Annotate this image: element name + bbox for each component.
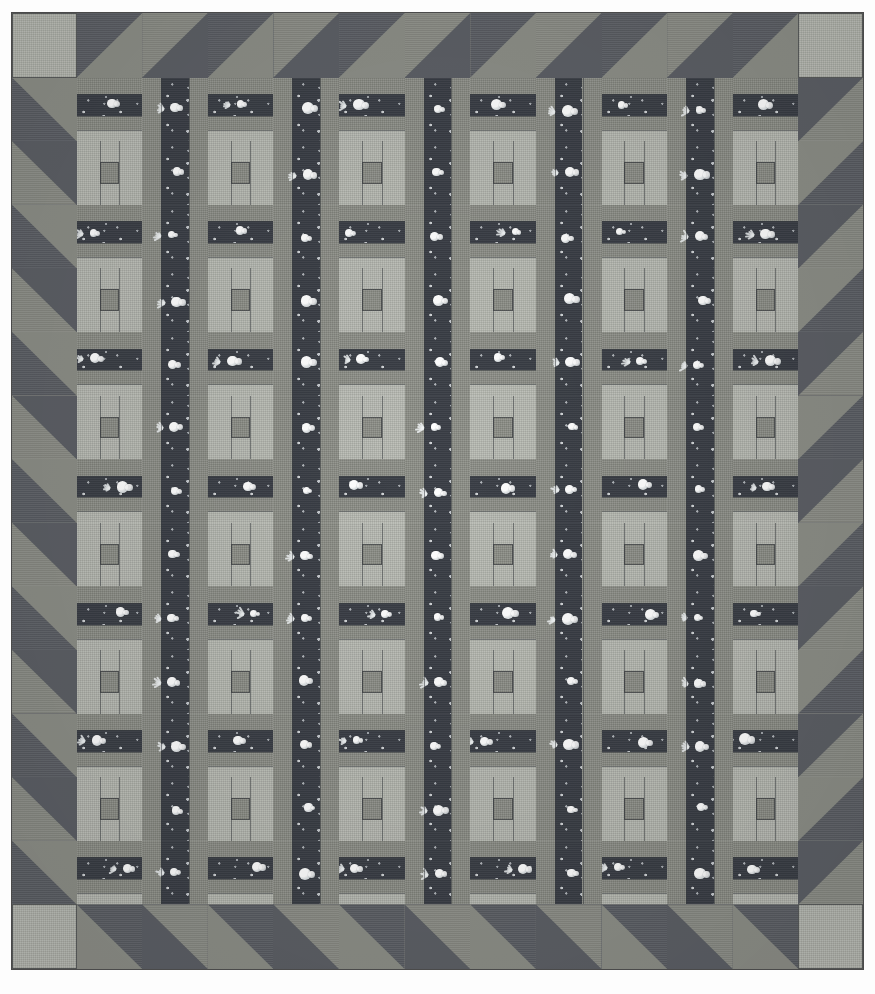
block-rail-fence: [602, 141, 668, 205]
block-coin-strip: [339, 714, 405, 778]
coin-band-light: [77, 384, 143, 395]
blossom-motif: [362, 102, 369, 109]
blossom-motif: [491, 99, 502, 110]
coin-band-medium: [470, 332, 536, 349]
sprig-motif: [83, 233, 84, 234]
coin-band-medium: [77, 586, 143, 603]
sprig-motif: [349, 359, 350, 360]
blossom-motif: [243, 482, 253, 492]
coin-band-light: [602, 639, 668, 650]
coin-band-print: [208, 94, 274, 116]
sprig-motif: [688, 237, 689, 238]
block-coin-strip: [339, 205, 405, 269]
block-coin-strip: [602, 459, 668, 523]
blossom-motif: [301, 614, 309, 622]
sprig-motif: [755, 487, 756, 488]
blossom-motif: [236, 226, 244, 234]
border-bottom-triangle: [77, 904, 143, 969]
blossom-motif: [304, 803, 312, 811]
block-print-sashing: [273, 141, 339, 205]
coin-band-medium: [77, 841, 143, 858]
block-rail-fence: [77, 523, 143, 587]
print-centre-bar: [555, 268, 583, 332]
coin-band-medium: [470, 205, 536, 222]
block-print-sashing: [273, 586, 339, 650]
blossom-motif: [357, 866, 363, 872]
blossom-motif: [695, 741, 705, 751]
coin-band-medium: [470, 714, 536, 731]
coin-band-medium: [602, 205, 668, 222]
rail-centre: [624, 417, 644, 439]
coin-band-light: [470, 639, 536, 650]
blossom-motif: [434, 613, 441, 620]
blossom-motif: [572, 296, 579, 303]
blossom-motif: [237, 100, 244, 107]
blossom-motif: [123, 610, 129, 616]
coin-band-print: [339, 349, 405, 371]
border-top-triangle: [77, 13, 143, 78]
border-top-triangle: [602, 13, 668, 78]
coin-band-medium: [339, 586, 405, 603]
block-rail-fence: [733, 523, 799, 587]
rail-centre: [231, 544, 251, 566]
coin-band-print: [77, 857, 143, 879]
block-rail-fence: [602, 396, 668, 460]
blossom-motif: [758, 99, 769, 110]
coin-band-print: [602, 94, 668, 116]
blossom-motif: [381, 610, 389, 618]
coin-band-print: [733, 94, 799, 116]
print-centre-bar: [161, 523, 189, 587]
blossom-motif: [573, 871, 578, 876]
block-coin-strip: [208, 205, 274, 269]
block-print-sashing: [667, 396, 733, 460]
block-print-sashing: [536, 586, 602, 650]
block-rail-fence: [77, 777, 143, 841]
blossom-motif: [252, 862, 262, 872]
block-rail-fence: [339, 141, 405, 205]
coin-band-light: [339, 511, 405, 522]
border-top-triangle: [273, 13, 339, 78]
print-centre-bar: [424, 78, 452, 142]
coin-band-print: [470, 349, 536, 371]
blossom-motif: [702, 234, 708, 240]
block-rail-fence: [77, 141, 143, 205]
blossom-motif: [387, 612, 392, 617]
block-coin-strip: [339, 332, 405, 396]
blossom-motif: [303, 487, 310, 494]
coin-band-light: [208, 893, 274, 904]
block-print-sashing: [536, 841, 602, 905]
block-print-sashing: [142, 78, 208, 142]
blossom-motif: [441, 680, 447, 686]
blossom-motif: [563, 549, 573, 559]
block-coin-strip: [339, 459, 405, 523]
print-centre-bar: [292, 714, 320, 778]
border-left-triangle: [12, 268, 77, 332]
block-print-sashing: [273, 332, 339, 396]
block-coin-strip: [602, 841, 668, 905]
block-print-sashing: [405, 332, 471, 396]
block-print-sashing: [667, 141, 733, 205]
blossom-motif: [572, 741, 579, 748]
block-print-sashing: [536, 332, 602, 396]
blossom-motif: [359, 738, 364, 743]
coin-band-print: [77, 730, 143, 752]
blossom-motif: [774, 358, 781, 365]
coin-band-medium: [77, 879, 143, 893]
border-left-triangle: [12, 205, 77, 269]
sprig-motif: [629, 361, 630, 362]
coin-band-medium: [77, 459, 143, 476]
block-coin-strip: [77, 841, 143, 905]
rail-centre: [362, 798, 382, 820]
block-coin-strip: [733, 841, 799, 905]
blossom-motif: [573, 359, 580, 366]
rail-centre: [100, 289, 120, 311]
sprig-motif: [556, 745, 557, 746]
blossom-motif: [350, 864, 359, 873]
blossom-motif: [431, 423, 438, 430]
block-coin-strip: [339, 78, 405, 142]
blossom-motif: [572, 487, 577, 492]
coin-band-print: [208, 857, 274, 879]
print-centre-bar: [292, 332, 320, 396]
corner-bottom-right: [798, 904, 863, 969]
coin-band-medium: [208, 752, 274, 766]
